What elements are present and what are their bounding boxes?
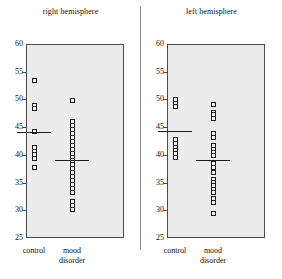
y-axis-tick-label: 35 — [146, 179, 164, 187]
data-point — [211, 135, 216, 140]
y-axis-tick-mark — [22, 183, 27, 184]
panel-right-hemisphere: right hemisphere 2530354045505560 contro… — [0, 0, 141, 279]
y-axis-tick-mark — [163, 72, 168, 73]
mean-line-mood-disorder — [196, 160, 230, 161]
data-point — [211, 200, 216, 205]
data-point — [70, 98, 75, 103]
data-point — [32, 165, 37, 170]
data-point — [211, 190, 216, 195]
y-axis-tick-label: 30 — [5, 206, 23, 214]
y-axis-tick-label: 40 — [5, 151, 23, 159]
y-axis-tick-mark — [22, 155, 27, 156]
panel-title-left-hemisphere: left hemisphere — [141, 7, 282, 16]
mean-line-mood-disorder — [55, 160, 89, 161]
plot-area-right-hemisphere — [26, 44, 124, 238]
y-axis-tick-mark — [163, 210, 168, 211]
data-point — [173, 155, 178, 160]
data-point — [32, 78, 37, 83]
data-point — [211, 211, 216, 216]
data-point — [211, 116, 216, 121]
data-point — [70, 190, 75, 195]
y-axis-tick-mark — [22, 72, 27, 73]
y-axis-tick-label: 45 — [5, 123, 23, 131]
y-axis-tick-label: 55 — [146, 68, 164, 76]
y-axis-tick-mark — [163, 183, 168, 184]
y-axis-tick-label: 40 — [146, 151, 164, 159]
y-axis-tick-mark — [163, 127, 168, 128]
data-point — [211, 102, 216, 107]
y-axis-tick-label: 30 — [146, 206, 164, 214]
dot-plot-figure: right hemisphere 2530354045505560 contro… — [0, 0, 282, 279]
data-point — [211, 153, 216, 158]
data-point — [173, 104, 178, 109]
y-axis-tick-mark — [22, 127, 27, 128]
data-point — [211, 170, 216, 175]
y-axis-tick-label: 60 — [5, 40, 23, 48]
x-axis-label-mood-disorder: mooddisorder — [178, 246, 248, 266]
y-axis-tick-label: 35 — [5, 179, 23, 187]
x-axis-label-line2: disorder — [37, 256, 107, 266]
panel-title-right-hemisphere: right hemisphere — [0, 7, 141, 16]
y-axis-tick-label: 25 — [5, 234, 23, 242]
data-point — [32, 156, 37, 161]
mean-line-control — [158, 131, 192, 132]
x-axis-label-line2: disorder — [178, 256, 248, 266]
mean-line-control — [17, 132, 51, 133]
data-point — [32, 106, 37, 111]
y-axis-tick-label: 55 — [5, 68, 23, 76]
y-axis-tick-mark — [163, 99, 168, 100]
y-axis-tick-label: 25 — [146, 234, 164, 242]
data-point — [70, 207, 75, 212]
y-axis-tick-label: 50 — [146, 95, 164, 103]
x-axis-label-mood-disorder: mooddisorder — [37, 246, 107, 266]
y-axis-tick-mark — [22, 210, 27, 211]
plot-area-left-hemisphere — [167, 44, 265, 238]
y-axis-tick-mark — [22, 99, 27, 100]
y-axis-tick-mark — [163, 155, 168, 156]
y-axis-tick-label: 45 — [146, 123, 164, 131]
panel-left-hemisphere: left hemisphere 2530354045505560 control… — [141, 0, 282, 279]
y-axis-tick-label: 50 — [5, 95, 23, 103]
y-axis-tick-label: 60 — [146, 40, 164, 48]
